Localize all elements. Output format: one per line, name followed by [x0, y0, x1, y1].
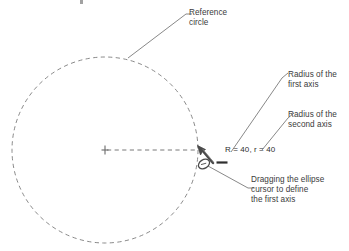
- leader-line-reference-circle: [128, 14, 186, 58]
- label-radius-first-axis-line2: first axis: [288, 80, 337, 90]
- leader-line-dragging-note: [208, 166, 248, 188]
- label-radius-second-axis: Radius of the second axis: [288, 110, 337, 130]
- label-reference-circle-line1: Reference: [189, 8, 227, 18]
- label-dragging-note: Dragging the ellipse cursor to define th…: [251, 175, 324, 206]
- label-dragging-note-line2: cursor to define: [251, 185, 324, 195]
- label-radius-first-axis-line1: Radius of the: [288, 70, 337, 80]
- label-radius-first-axis: Radius of the first axis: [288, 70, 337, 90]
- label-reference-circle-line2: circle: [189, 18, 227, 28]
- ellipse-cursor-icon[interactable]: [197, 146, 214, 171]
- crop-remnant-mark: [80, 0, 83, 4]
- label-dragging-note-line3: the first axis: [251, 195, 324, 205]
- label-dragging-note-line1: Dragging the ellipse: [251, 175, 324, 185]
- label-radius-second-axis-line1: Radius of the: [288, 110, 337, 120]
- label-reference-circle: Reference circle: [189, 8, 227, 28]
- label-radius-second-axis-line2: second axis: [288, 120, 337, 130]
- diagram-canvas: Reference circle Radius of the first axi…: [0, 0, 349, 251]
- dimension-readout: R = 40, r = 40: [225, 145, 275, 155]
- leader-line-radius-first: [231, 78, 282, 152]
